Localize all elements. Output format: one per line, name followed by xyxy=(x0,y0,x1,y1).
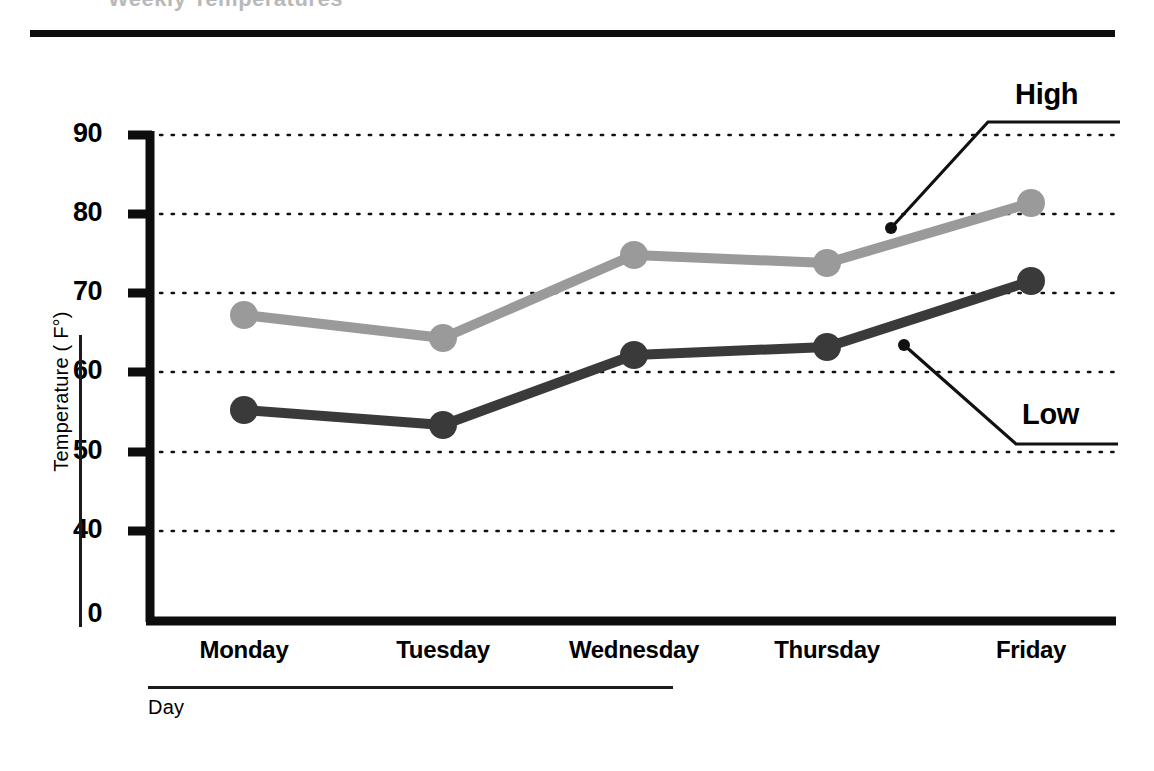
ytick-label-40: 40 xyxy=(30,514,102,545)
gridlines xyxy=(160,135,1116,531)
annotation-anchor-dot-low xyxy=(898,339,910,351)
data-point-low-thursday xyxy=(813,333,841,361)
data-point-low-tuesday xyxy=(429,411,457,439)
x-axis-title-rule xyxy=(148,686,673,689)
x-axis-title: Day xyxy=(148,696,184,719)
data-point-high-tuesday xyxy=(429,324,457,352)
annotation-leader-low xyxy=(904,345,1118,444)
annotation-label-low: Low xyxy=(1022,398,1079,431)
data-point-high-wednesday xyxy=(620,241,648,269)
annotation-anchor-dot-high xyxy=(885,222,897,234)
data-point-high-friday xyxy=(1017,189,1045,217)
y-axis-title: Temperature ( F°) xyxy=(50,277,73,507)
xtick-label-tuesday: Tuesday xyxy=(343,636,543,664)
data-point-high-thursday xyxy=(813,249,841,277)
data-point-low-friday xyxy=(1017,267,1045,295)
annotation-label-high: High xyxy=(1015,78,1078,111)
data-point-low-wednesday xyxy=(620,341,648,369)
xtick-label-thursday: Thursday xyxy=(727,636,927,664)
y-axis-title-rule xyxy=(79,335,82,627)
ytick-label-0: 0 xyxy=(30,598,102,629)
ytick-label-90: 90 xyxy=(30,118,102,149)
chart-page: Weekly Temperatures xyxy=(0,0,1154,771)
xtick-label-wednesday: Wednesday xyxy=(534,636,734,664)
data-point-low-monday xyxy=(230,396,258,424)
data-point-high-monday xyxy=(230,301,258,329)
xtick-label-monday: Monday xyxy=(144,636,344,664)
ytick-label-80: 80 xyxy=(30,197,102,228)
xtick-label-friday: Friday xyxy=(931,636,1131,664)
